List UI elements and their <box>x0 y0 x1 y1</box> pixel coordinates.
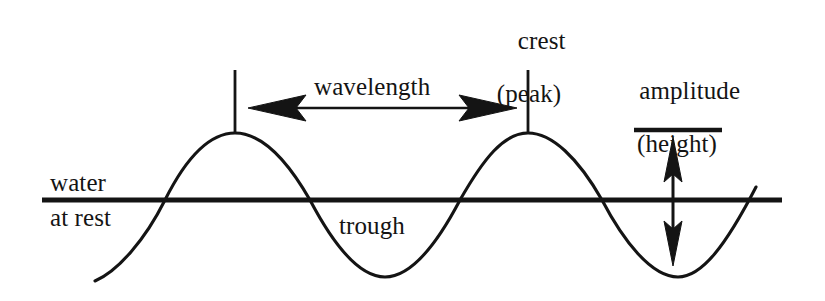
label-crest-peak: crest (peak) <box>483 2 575 157</box>
wave-diagram: water at rest trough crest (peak) amplit… <box>0 0 825 301</box>
label-crest-line1: crest <box>518 27 566 54</box>
label-at-rest: at rest <box>50 205 111 231</box>
label-wavelength: wavelength <box>310 74 434 100</box>
label-amplitude-height: amplitude (height) <box>598 52 756 207</box>
label-water: water <box>50 170 106 196</box>
label-trough: trough <box>339 213 405 239</box>
label-crest-line2: (peak) <box>483 81 575 107</box>
label-amplitude-line2: (height) <box>598 131 756 157</box>
label-amplitude-line1: amplitude <box>639 77 740 104</box>
